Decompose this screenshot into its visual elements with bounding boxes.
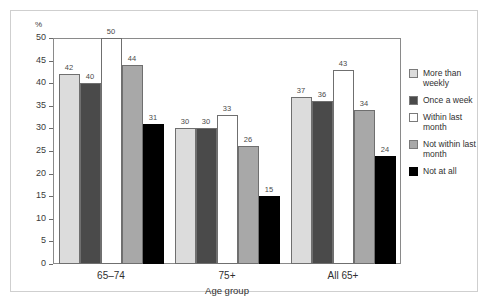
- y-tick-label: 25: [16, 145, 46, 155]
- bar: [143, 124, 164, 264]
- legend-swatch-icon: [409, 113, 418, 122]
- y-tick-label: 30: [16, 122, 46, 132]
- legend-swatch-icon: [409, 167, 418, 176]
- bar-value-label: 15: [256, 185, 282, 194]
- legend-swatch-icon: [409, 69, 418, 78]
- y-tick-label: 20: [16, 168, 46, 178]
- bar: [375, 156, 396, 264]
- legend-item[interactable]: Not at all: [409, 166, 483, 176]
- bar: [175, 128, 196, 264]
- x-tick-label: All 65+: [283, 270, 403, 281]
- bar: [196, 128, 217, 264]
- legend-swatch-icon: [409, 140, 418, 149]
- y-tick-mark: [49, 264, 53, 265]
- y-axis-unit-label: %: [35, 20, 42, 29]
- legend-item[interactable]: Within last month: [409, 112, 483, 132]
- legend-item[interactable]: Not within last month: [409, 139, 483, 159]
- bar-value-label: 36: [309, 90, 335, 99]
- legend-swatch-icon: [409, 96, 418, 105]
- bar-value-label: 30: [193, 117, 219, 126]
- bar-group: 4240504431: [53, 38, 169, 264]
- y-tick-label: 10: [16, 213, 46, 223]
- plot-area: 424050443130303326153736433424: [53, 38, 401, 264]
- x-tick-label: 75+: [167, 270, 287, 281]
- bar-value-label: 24: [372, 145, 398, 154]
- chart-legend: More than weeklyOnce a weekWithin last m…: [409, 68, 483, 183]
- bar: [291, 97, 312, 264]
- y-tick-label: 50: [16, 32, 46, 42]
- x-tick-label: 65–74: [51, 270, 171, 281]
- legend-label: More than weekly: [423, 68, 483, 88]
- y-tick-label: 40: [16, 77, 46, 87]
- legend-item[interactable]: More than weekly: [409, 68, 483, 88]
- bar: [122, 65, 143, 264]
- bar-group: 3030332615: [169, 38, 285, 264]
- bar: [312, 101, 333, 264]
- y-tick-label: 0: [16, 258, 46, 268]
- bar: [238, 146, 259, 264]
- legend-label: Within last month: [423, 112, 483, 132]
- bar: [354, 110, 375, 264]
- legend-label: Not at all: [423, 166, 457, 176]
- y-tick-label: 5: [16, 235, 46, 245]
- bar-value-label: 26: [235, 135, 261, 144]
- x-axis-title: Age group: [53, 285, 401, 296]
- bar-value-label: 50: [98, 27, 124, 36]
- y-tick-label: 45: [16, 55, 46, 65]
- legend-item[interactable]: Once a week: [409, 95, 483, 105]
- chart-figure: % 05101520253035404550 42405044313030332…: [0, 0, 490, 304]
- bar-value-label: 42: [56, 63, 82, 72]
- bar-value-label: 44: [119, 54, 145, 63]
- bars-layer: 424050443130303326153736433424: [53, 38, 401, 264]
- bar-group: 3736433424: [285, 38, 401, 264]
- bar-value-label: 31: [140, 113, 166, 122]
- legend-label: Once a week: [423, 95, 473, 105]
- bar-value-label: 33: [214, 104, 240, 113]
- bar: [80, 83, 101, 264]
- bar: [59, 74, 80, 264]
- bar: [259, 196, 280, 264]
- legend-label: Not within last month: [423, 139, 483, 159]
- y-tick-label: 15: [16, 190, 46, 200]
- bar-value-label: 40: [77, 72, 103, 81]
- y-tick-label: 35: [16, 100, 46, 110]
- bar: [101, 38, 122, 264]
- bar-value-label: 34: [351, 99, 377, 108]
- bar-value-label: 43: [330, 59, 356, 68]
